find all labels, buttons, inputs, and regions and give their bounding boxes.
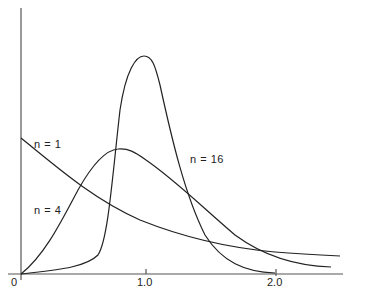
- curve-n4: [21, 149, 331, 274]
- tick-label-0: 0: [11, 276, 17, 288]
- curve-n16: [21, 56, 275, 274]
- curve-n1: [21, 138, 340, 256]
- label-n4: n = 4: [34, 204, 61, 216]
- tick-label-2: 2.0: [267, 276, 282, 288]
- label-n1: n = 1: [34, 138, 61, 150]
- tick-label-1: 1.0: [137, 276, 152, 288]
- label-n16: n = 16: [190, 153, 224, 165]
